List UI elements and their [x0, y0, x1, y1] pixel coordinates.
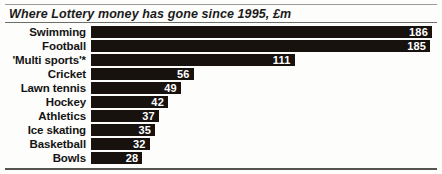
category-label: Athletics [0, 110, 86, 123]
bar: 185 [91, 40, 430, 52]
bar-value-label: 49 [164, 82, 177, 94]
bar: 111 [91, 54, 295, 66]
bar-track: 111 [91, 54, 295, 66]
bar-value-label: 111 [273, 54, 291, 66]
chart-row: Athletics37 [0, 110, 442, 124]
bar-track: 42 [91, 96, 168, 108]
top-divider [5, 4, 437, 5]
bar-value-label: 56 [177, 68, 190, 80]
bar: 56 [91, 68, 194, 80]
chart-title: Where Lottery money has gone since 1995,… [9, 7, 291, 21]
lottery-funding-bar-chart: Where Lottery money has gone since 1995,… [0, 0, 442, 174]
bar-track: 49 [91, 82, 181, 94]
category-label: Swimming [0, 26, 86, 39]
bar: 35 [91, 124, 155, 136]
category-label: Cricket [0, 68, 86, 81]
bar: 28 [91, 152, 142, 164]
chart-row: Football185 [0, 40, 442, 54]
category-label: Ice skating [0, 124, 86, 137]
bar-value-label: 37 [142, 110, 155, 122]
category-label: Basketball [0, 138, 86, 151]
bar-track: 35 [91, 124, 155, 136]
bar-track: 37 [91, 110, 159, 122]
chart-row: Basketball32 [0, 138, 442, 152]
bar-value-label: 185 [407, 40, 426, 52]
chart-row: Cricket56 [0, 68, 442, 82]
bar-value-label: 32 [133, 138, 146, 150]
bar-track: 185 [91, 40, 430, 52]
chart-row: Hockey42 [0, 96, 442, 110]
bar-value-label: 42 [151, 96, 164, 108]
category-label: Hockey [0, 96, 86, 109]
bar-track: 32 [91, 138, 150, 150]
bar-value-label: 35 [139, 124, 152, 136]
chart-row: Ice skating35 [0, 124, 442, 138]
bar: 186 [91, 26, 432, 38]
bar-track: 56 [91, 68, 194, 80]
bar-value-label: 28 [126, 152, 139, 164]
bar-track: 28 [91, 152, 142, 164]
category-label: 'Multi sports'* [0, 54, 86, 67]
category-label: Bowls [0, 152, 86, 165]
bar-track: 186 [91, 26, 432, 38]
bar-value-label: 186 [409, 26, 428, 38]
category-label: Football [0, 40, 86, 53]
bar: 37 [91, 110, 159, 122]
chart-row: Swimming186 [0, 26, 442, 40]
chart-row: Bowls28 [0, 152, 442, 166]
bar: 32 [91, 138, 150, 150]
chart-row: Lawn tennis49 [0, 82, 442, 96]
category-label: Lawn tennis [0, 82, 86, 95]
chart-row: 'Multi sports'*111 [0, 54, 442, 68]
bar: 49 [91, 82, 181, 94]
chart-plot-area: Swimming186Football185'Multi sports'*111… [0, 26, 442, 166]
title-divider [5, 22, 437, 23]
bottom-divider [5, 168, 437, 170]
bar: 42 [91, 96, 168, 108]
